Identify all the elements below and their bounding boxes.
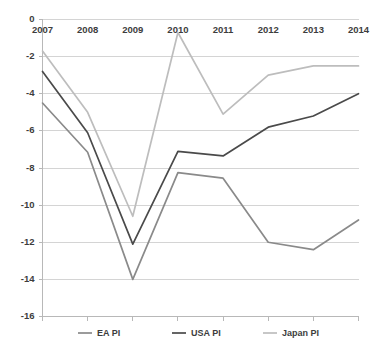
y-tick-label--14: -14 xyxy=(21,273,35,284)
x-tick-label-2009: 2009 xyxy=(122,24,143,35)
y-tick-label-0: 0 xyxy=(29,13,34,24)
legend-label-ea-pi: EA PI xyxy=(97,328,120,338)
y-tick-label--12: -12 xyxy=(21,236,35,247)
chart-background xyxy=(0,0,381,356)
y-tick-label--8: -8 xyxy=(26,162,34,173)
chart-canvas: 0-2-4-6-8-10-12-14-16 200720082009201020… xyxy=(0,0,381,356)
x-tick-label-2007: 2007 xyxy=(32,24,53,35)
x-tick-label-2011: 2011 xyxy=(213,24,234,35)
y-tick-label--16: -16 xyxy=(21,310,35,321)
y-tick-label--6: -6 xyxy=(26,124,34,135)
y-tick-label--10: -10 xyxy=(21,199,35,210)
x-tick-label-2013: 2013 xyxy=(303,24,324,35)
y-tick-label--4: -4 xyxy=(26,87,35,98)
legend-label-usa-pi: USA PI xyxy=(191,328,221,338)
line-chart-figure: 0-2-4-6-8-10-12-14-16 200720082009201020… xyxy=(0,0,381,356)
x-tick-label-2008: 2008 xyxy=(77,24,98,35)
legend-label-japan-pi: Japan PI xyxy=(282,328,319,338)
x-tick-label-2014: 2014 xyxy=(348,24,370,35)
x-tick-label-2012: 2012 xyxy=(258,24,279,35)
y-tick-label--2: -2 xyxy=(26,50,34,61)
chart-legend: EA PIUSA PIJapan PI xyxy=(78,328,319,338)
